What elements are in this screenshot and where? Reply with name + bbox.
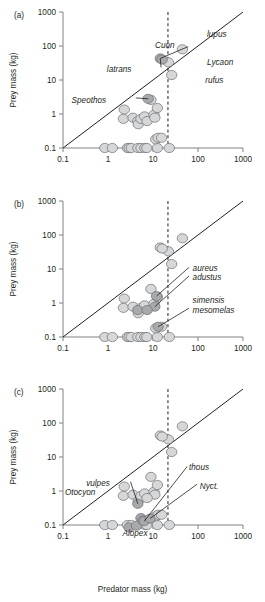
figure-canids-prey-mass: (a)0.111010010000.11101001000Prey mass (…: [0, 0, 265, 602]
data-point: [166, 447, 176, 456]
y-tick-label: 10: [47, 265, 57, 274]
data-point: [164, 520, 174, 529]
x-tick-label: 1: [106, 155, 111, 164]
data-point: [107, 520, 117, 529]
x-tick-label: 10: [148, 155, 158, 164]
label-leader-line: [155, 276, 189, 307]
panel-c: (c)0.111010010000.11101001000Prey mass (…: [0, 377, 265, 602]
scatter-plot-c: (c)0.111010010000.11101001000Prey mass (…: [0, 377, 265, 602]
species-label: lupus: [207, 30, 227, 39]
data-point: [119, 482, 129, 491]
data-point: [152, 103, 162, 112]
scatter-plot-b: (b)0.111010010000.11101001000Prey mass (…: [0, 189, 265, 389]
y-tick-label: 10: [47, 76, 57, 85]
y-tick-label: 1000: [38, 385, 57, 394]
y-tick-label: 100: [42, 419, 56, 428]
data-point: [177, 234, 187, 243]
y-tick-label: 0.1: [45, 144, 57, 153]
y-axis-title: Prey mass (kg): [9, 241, 18, 296]
species-label: rufus: [205, 76, 223, 85]
species-label: Speothos: [72, 96, 107, 105]
panel-letter-b: (b): [14, 200, 24, 209]
x-tick-label: 1000: [234, 155, 253, 164]
data-point: [166, 259, 176, 268]
data-point: [150, 113, 160, 122]
data-point: [164, 143, 174, 152]
data-point: [107, 332, 117, 341]
y-axis-title: Prey mass (kg): [9, 52, 18, 107]
species-label: Lycaon: [207, 58, 234, 67]
data-point: [119, 294, 129, 303]
species-label: adustus: [193, 273, 222, 282]
data-point: [133, 305, 143, 314]
x-tick-label: 1000: [234, 532, 253, 541]
data-point: [156, 510, 166, 519]
x-tick-label: 1000: [234, 344, 253, 353]
identity-line: [63, 389, 243, 525]
data-point: [157, 432, 167, 441]
x-tick-label: 100: [191, 155, 205, 164]
species-label: Nyct.: [200, 482, 219, 491]
y-tick-label: 1000: [38, 8, 57, 17]
species-label: simensis: [193, 296, 225, 305]
label-leader-line: [158, 308, 189, 327]
species-label: Alopex: [121, 529, 148, 538]
species-label: aureus: [193, 264, 218, 273]
data-point: [133, 499, 143, 508]
x-tick-label: 1: [106, 344, 111, 353]
panel-a: (a)0.111010010000.11101001000Prey mass (…: [0, 0, 265, 200]
x-tick-label: 1: [106, 532, 111, 541]
y-tick-label: 1: [51, 299, 56, 308]
y-tick-label: 0.1: [45, 333, 57, 342]
data-point: [142, 143, 152, 152]
species-label: mesomelas: [193, 306, 235, 315]
data-point: [152, 480, 162, 489]
x-tick-label: 10: [148, 344, 158, 353]
y-tick-label: 1000: [38, 197, 57, 206]
y-tick-label: 1: [51, 487, 56, 496]
y-tick-label: 0.1: [45, 521, 57, 530]
y-tick-label: 1: [51, 110, 56, 119]
species-label: Otocyon: [65, 488, 96, 497]
data-point: [177, 422, 187, 431]
data-point: [157, 244, 167, 253]
panel-letter-a: (a): [14, 11, 24, 20]
data-point: [156, 133, 166, 142]
x-tick-label: 0.1: [57, 532, 69, 541]
data-point: [119, 105, 129, 114]
data-point: [118, 491, 128, 500]
y-axis-title: Prey mass (kg): [9, 429, 18, 484]
data-point: [166, 70, 176, 79]
x-tick-label: 100: [191, 344, 205, 353]
data-point: [107, 143, 117, 152]
y-tick-label: 10: [47, 453, 57, 462]
species-label: thous: [189, 463, 209, 472]
data-point: [118, 114, 128, 123]
data-point: [142, 305, 152, 314]
scatter-plot-a: (a)0.111010010000.11101001000Prey mass (…: [0, 0, 265, 200]
species-label: latrans: [107, 65, 132, 74]
label-leader-line: [157, 267, 189, 296]
x-tick-label: 100: [191, 532, 205, 541]
data-point: [146, 472, 156, 481]
data-point: [142, 493, 152, 502]
panel-letter-c: (c): [14, 388, 24, 397]
x-tick-label: 0.1: [57, 344, 69, 353]
y-tick-label: 100: [42, 42, 56, 51]
data-point: [118, 303, 128, 312]
y-tick-label: 100: [42, 231, 56, 240]
species-label: Cuon: [155, 41, 175, 50]
data-point: [152, 143, 162, 152]
data-point: [152, 332, 162, 341]
x-axis-title: Predator mass (kg): [0, 578, 265, 596]
x-tick-label: 0.1: [57, 155, 69, 164]
species-label: vulpes: [86, 479, 110, 488]
data-point: [142, 332, 152, 341]
x-tick-label: 10: [148, 532, 158, 541]
data-point: [164, 332, 174, 341]
panel-b: (b)0.111010010000.11101001000Prey mass (…: [0, 189, 265, 389]
